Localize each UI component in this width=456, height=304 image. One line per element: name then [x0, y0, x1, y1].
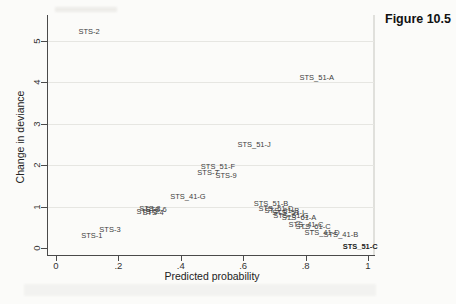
scanned-figure-page: Figure 10.5 Change in deviance Predicted… [0, 0, 456, 304]
figure-number-label: Figure 10.5 [385, 12, 451, 26]
y-gridline [48, 82, 374, 83]
data-point-label: STS-3 [99, 224, 120, 233]
y-tick-label: 4 [31, 80, 42, 85]
x-tick-label: 0 [53, 260, 58, 271]
plot-right-border [373, 15, 375, 256]
y-tick-mark [41, 207, 47, 208]
x-tick-label: .4 [177, 260, 185, 271]
data-point-label: STS-4 [142, 208, 163, 217]
y-tick-mark [41, 248, 47, 249]
data-point-label: STS_51-A [300, 73, 335, 82]
y-axis-title: Change in deviance [14, 91, 26, 184]
data-point-label: STS-2 [78, 27, 99, 36]
y-tick-label: 3 [31, 121, 42, 126]
scan-smudge [55, 7, 117, 12]
y-axis-line [47, 15, 48, 255]
data-point-label: STS-1 [81, 231, 102, 240]
data-point-label: STS-9 [215, 171, 236, 180]
y-tick-label: 0 [31, 245, 42, 250]
x-tick-label: .8 [302, 260, 310, 271]
y-tick-mark [41, 41, 47, 42]
x-axis-line [47, 255, 375, 256]
x-tick-label: 1 [365, 260, 370, 271]
y-gridline [48, 41, 374, 42]
y-tick-mark [41, 165, 47, 166]
y-tick-mark [41, 124, 47, 125]
y-gridline [48, 124, 374, 125]
data-point-label: STS_41-B [324, 230, 359, 239]
scan-band-bottom [24, 284, 376, 296]
x-tick-label: .2 [114, 260, 122, 271]
x-axis-title: Predicted probability [164, 270, 259, 282]
data-point-label: STS_41-G [170, 191, 205, 200]
x-tick-label: .6 [239, 260, 247, 271]
y-tick-mark [41, 82, 47, 83]
y-tick-label: 5 [31, 38, 42, 43]
data-point-label: STS_51-J [237, 140, 270, 149]
y-gridline [48, 207, 374, 208]
y-tick-label: 2 [31, 163, 42, 168]
scan-band-top [28, 13, 386, 22]
y-tick-label: 1 [31, 204, 42, 209]
data-point-label: STS_51-C [343, 241, 378, 250]
